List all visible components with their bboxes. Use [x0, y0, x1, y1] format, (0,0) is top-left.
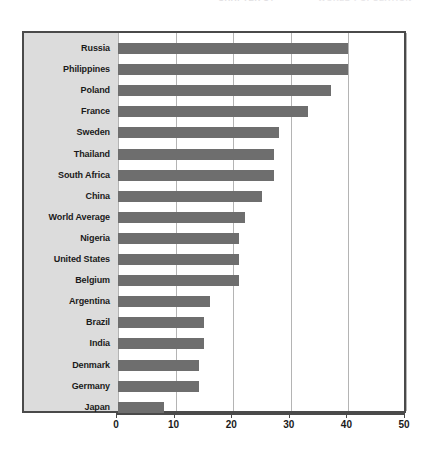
bar-row: Argentina [24, 291, 404, 312]
bar [118, 254, 239, 265]
bar-chart: RussiaPhilippinesPolandFranceSwedenThail… [22, 31, 406, 413]
category-label: France [24, 101, 110, 122]
gridline-50 [406, 33, 407, 411]
bar [118, 85, 331, 96]
bar-track [118, 101, 404, 122]
x-axis: 01020304050 [22, 413, 406, 441]
category-label: Belgium [24, 270, 110, 291]
bar-track [118, 291, 404, 312]
bar-row: Sweden [24, 122, 404, 143]
bar-row: South Africa [24, 165, 404, 186]
bar-track [118, 333, 404, 354]
running-header-left: CHAPTER 14 [218, 0, 274, 3]
bar-track [118, 207, 404, 228]
bar-track [118, 312, 404, 333]
bar [118, 127, 279, 138]
category-label: Sweden [24, 122, 110, 143]
bar-row: Germany [24, 376, 404, 397]
bar [118, 317, 204, 328]
category-label: South Africa [24, 165, 110, 186]
category-label: Poland [24, 80, 110, 101]
x-tick [174, 413, 175, 418]
bar-track [118, 270, 404, 291]
bar-row: Belgium [24, 270, 404, 291]
running-header: CHAPTER 14 WORLD POPULATION [0, 0, 438, 9]
bar-rows: RussiaPhilippinesPolandFranceSwedenThail… [24, 33, 404, 411]
bar-track [118, 80, 404, 101]
x-tick-label: 10 [168, 419, 179, 430]
x-tick-label: 0 [113, 419, 119, 430]
category-label: India [24, 333, 110, 354]
x-tick-label: 40 [341, 419, 352, 430]
bar-row: Philippines [24, 59, 404, 80]
x-tick [116, 413, 117, 418]
bar [118, 381, 199, 392]
bar-track [118, 59, 404, 80]
category-label: Argentina [24, 291, 110, 312]
bar-row: France [24, 101, 404, 122]
bar [118, 296, 210, 307]
bar-row: Thailand [24, 144, 404, 165]
bar-row: Denmark [24, 355, 404, 376]
bar-track [118, 186, 404, 207]
bar-row: Nigeria [24, 228, 404, 249]
category-label: Brazil [24, 312, 110, 333]
category-label: World Average [24, 207, 110, 228]
x-tick [346, 413, 347, 418]
bar [118, 212, 245, 223]
bar-row: Russia [24, 38, 404, 59]
bar-row: Poland [24, 80, 404, 101]
bar [118, 360, 199, 371]
bar-track [118, 355, 404, 376]
category-label: Russia [24, 38, 110, 59]
bar-track [118, 165, 404, 186]
bar-row: Brazil [24, 312, 404, 333]
category-label: China [24, 186, 110, 207]
bar [118, 43, 348, 54]
bar-track [118, 122, 404, 143]
bar-track [118, 38, 404, 59]
bar-track [118, 228, 404, 249]
x-tick [289, 413, 290, 418]
x-tick-label: 30 [283, 419, 294, 430]
bar-row: China [24, 186, 404, 207]
x-axis-line [116, 413, 404, 415]
bar [118, 64, 348, 75]
bar [118, 233, 239, 244]
bar-track [118, 144, 404, 165]
bar [118, 338, 204, 349]
bar-track [118, 376, 404, 397]
bar-track [118, 249, 404, 270]
bar-row: United States [24, 249, 404, 270]
bar [118, 402, 164, 413]
category-label: Germany [24, 376, 110, 397]
x-tick [231, 413, 232, 418]
category-label: Nigeria [24, 228, 110, 249]
category-label: Denmark [24, 355, 110, 376]
x-tick [404, 413, 405, 418]
category-label: Thailand [24, 144, 110, 165]
bar [118, 149, 274, 160]
x-tick-label: 50 [398, 419, 409, 430]
bar-row: World Average [24, 207, 404, 228]
bar [118, 106, 308, 117]
bar [118, 275, 239, 286]
bar-row: India [24, 333, 404, 354]
x-tick-label: 20 [226, 419, 237, 430]
bar [118, 191, 262, 202]
category-label: United States [24, 249, 110, 270]
running-header-right: WORLD POPULATION [318, 0, 412, 3]
category-label: Philippines [24, 59, 110, 80]
bar [118, 170, 274, 181]
